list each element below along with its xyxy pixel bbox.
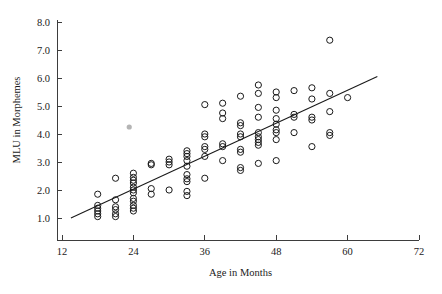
y-tick-label-2.0: 2.0: [37, 185, 50, 196]
data-point: [327, 90, 333, 96]
scatter-chart: 1.02.03.04.05.06.07.08.0122436486072Age …: [0, 0, 442, 294]
data-point-faint: [127, 124, 132, 129]
data-point: [291, 88, 297, 94]
data-point: [220, 158, 226, 164]
data-point: [237, 93, 243, 99]
data-point: [184, 188, 190, 194]
x-tick-label-48: 48: [271, 246, 282, 257]
data-point: [184, 172, 190, 178]
x-tick-label-72: 72: [414, 246, 425, 257]
y-tick-label-8.0: 8.0: [37, 17, 50, 28]
x-tick-label-36: 36: [200, 246, 211, 257]
y-tick-label-7.0: 7.0: [37, 45, 50, 56]
data-point: [309, 144, 315, 150]
data-point: [255, 104, 261, 110]
data-point: [273, 158, 279, 164]
plot-area: 1.02.03.04.05.06.07.08.0122436486072Age …: [0, 0, 442, 294]
data-point: [309, 96, 315, 102]
data-point: [255, 82, 261, 88]
data-point: [327, 37, 333, 43]
data-point: [273, 137, 279, 143]
data-point: [255, 160, 261, 166]
data-point: [166, 187, 172, 193]
y-tick-label-1.0: 1.0: [37, 213, 50, 224]
data-point: [95, 191, 101, 197]
y-tick-label-4.0: 4.0: [37, 129, 50, 140]
data-point: [255, 114, 261, 120]
y-tick-label-6.0: 6.0: [37, 73, 50, 84]
x-tick-label-60: 60: [342, 246, 353, 257]
data-point: [255, 90, 261, 96]
data-point: [273, 107, 279, 113]
y-axis-title: MLU in Morphemes: [11, 77, 22, 164]
data-point: [112, 175, 118, 181]
data-point: [345, 95, 351, 101]
data-point: [202, 102, 208, 108]
y-tick-label-3.0: 3.0: [37, 157, 50, 168]
x-tick-label-12: 12: [57, 246, 68, 257]
data-point: [291, 130, 297, 136]
data-point: [327, 109, 333, 115]
data-point: [309, 85, 315, 91]
x-tick-label-24: 24: [128, 246, 139, 257]
x-axis-title: Age in Months: [209, 267, 272, 278]
data-point: [130, 170, 136, 176]
data-point: [220, 100, 226, 106]
data-point: [202, 175, 208, 181]
y-tick-label-5.0: 5.0: [37, 101, 50, 112]
